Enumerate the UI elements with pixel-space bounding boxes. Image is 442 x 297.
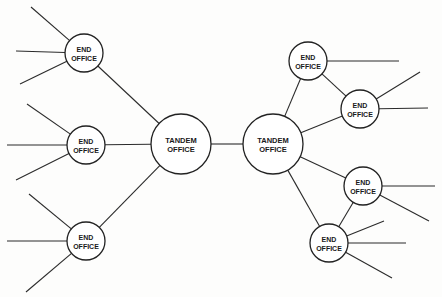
trunk-link-end-right-1-to-end-right-2 [322, 74, 346, 96]
node-label-line2: OFFICE [73, 147, 99, 154]
end-office-circle [289, 42, 327, 80]
subscriber-line [29, 194, 71, 229]
node-label-line1: END [79, 234, 94, 241]
subscriber-line [379, 108, 428, 109]
node-end-right-2: ENDOFFICE [341, 90, 379, 128]
node-label-line1: TANDEM [257, 136, 289, 145]
node-label-line2: OFFICE [259, 145, 287, 154]
subscriber-line [347, 221, 384, 236]
node-end-left-bottom: ENDOFFICE [67, 222, 105, 260]
subscriber-line [26, 253, 72, 292]
node-label-line1: END [77, 46, 92, 53]
end-office-circle [344, 167, 382, 205]
node-label-line2: OFFICE [71, 55, 97, 62]
subscriber-line [346, 252, 392, 278]
node-label-line1: END [79, 138, 94, 145]
end-office-circle [310, 224, 348, 262]
end-office-circle [67, 126, 105, 164]
subscriber-line [380, 195, 429, 221]
node-end-right-3: ENDOFFICE [344, 167, 382, 205]
node-label-line2: OFFICE [350, 188, 376, 195]
subscriber-line [16, 51, 65, 52]
trunk-link-tandem-right-to-end-right-4 [288, 170, 320, 226]
trunk-link-tandem-right-to-end-right-3 [300, 157, 346, 178]
trunk-links [98, 66, 353, 227]
node-label-line2: OFFICE [73, 243, 99, 250]
node-tandem-right: TANDEMOFFICE [243, 114, 303, 174]
end-office-circle [341, 90, 379, 128]
node-end-right-1: ENDOFFICE [289, 42, 327, 80]
subscriber-line [16, 153, 69, 180]
subscriber-line [376, 72, 420, 99]
network-diagram: TANDEMOFFICETANDEMOFFICEENDOFFICEENDOFFI… [0, 0, 442, 297]
subscriber-line [31, 7, 70, 41]
office-nodes: TANDEMOFFICETANDEMOFFICEENDOFFICEENDOFFI… [65, 34, 382, 262]
subscriber-line [20, 61, 67, 84]
node-label-line1: END [353, 102, 368, 109]
node-label-line1: END [301, 54, 316, 61]
diagram-svg: TANDEMOFFICETANDEMOFFICEENDOFFICEENDOFFI… [0, 0, 442, 297]
node-label-line1: END [322, 236, 337, 243]
node-label-line1: END [356, 179, 371, 186]
trunk-link-tandem-left-to-end-left-bottom [99, 165, 160, 227]
node-label-line1: TANDEM [165, 136, 197, 145]
node-end-left-top: ENDOFFICE [65, 34, 103, 72]
end-office-circle [67, 222, 105, 260]
node-label-line2: OFFICE [347, 111, 373, 118]
node-label-line2: OFFICE [316, 245, 342, 252]
node-tandem-left: TANDEMOFFICE [151, 114, 211, 174]
node-end-right-4: ENDOFFICE [310, 224, 348, 262]
node-label-line2: OFFICE [295, 63, 321, 70]
node-end-left-middle: ENDOFFICE [67, 126, 105, 164]
trunk-link-tandem-right-to-end-right-1 [285, 79, 301, 117]
trunk-link-tandem-left-to-end-left-top [98, 66, 159, 123]
node-label-line2: OFFICE [167, 145, 195, 154]
trunk-link-tandem-right-to-end-right-2 [301, 116, 343, 133]
trunk-link-end-right-3-to-end-right-4 [339, 202, 354, 226]
subscriber-line [27, 104, 70, 134]
end-office-circle [65, 34, 103, 72]
